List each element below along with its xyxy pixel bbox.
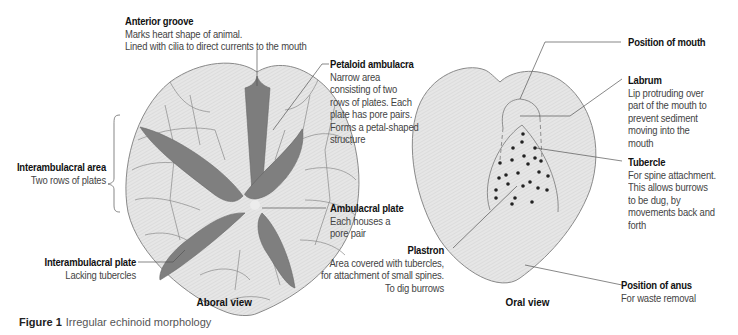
oral-view-title: Oral view	[506, 296, 550, 308]
figure-title: Irregular echinoid morphology	[66, 316, 212, 328]
label-title: Interambulacral plate	[19, 256, 136, 269]
label-description: Each houses a pore pair	[330, 215, 403, 240]
label-description: For waste removal	[621, 292, 696, 305]
label-title: Position of mouth	[628, 36, 705, 49]
label-description: Lip protruding over part of the mouth to…	[628, 87, 707, 150]
label-description: Lacking tubercles	[19, 269, 136, 282]
label-plastron: Plastron Area covered with tubercles, fo…	[300, 244, 444, 294]
label-interambulacral-area: Interambulacral area Two rows of plates	[0, 161, 106, 186]
label-title: Ambulacral plate	[330, 202, 403, 215]
label-petaloid-ambulacra: Petaloid ambulacra Narrow area consistin…	[330, 58, 433, 146]
label-tubercle: Tubercle For spine attachment. This allo…	[628, 156, 730, 231]
label-title: Position of anus	[621, 279, 696, 292]
label-title: Anterior groove	[125, 15, 307, 28]
figure-number: Figure 1	[19, 316, 62, 328]
label-interambulacral-plate: Interambulacral plate Lacking tubercles	[0, 256, 136, 281]
label-description: Marks heart shape of animal. Lined with …	[125, 28, 307, 53]
label-position-of-mouth: Position of mouth	[628, 36, 718, 49]
label-title: Interambulacral area	[15, 161, 106, 174]
label-position-of-anus: Position of anus For waste removal	[621, 279, 708, 304]
label-title: Labrum	[628, 74, 707, 87]
figure-caption: Figure 1Irregular echinoid morphology	[19, 316, 211, 328]
label-title: Plastron	[320, 244, 444, 257]
label-ambulacral-plate: Ambulacral plate Each houses a pore pair	[330, 202, 415, 240]
label-description: For spine attachment. This allows burrow…	[628, 169, 716, 232]
label-labrum: Labrum Lip protruding over part of the m…	[628, 74, 719, 149]
label-description: Narrow area consisting of two rows of pl…	[330, 71, 419, 146]
aboral-view-title: Aboral view	[197, 296, 253, 308]
label-title: Tubercle	[628, 156, 716, 169]
label-description: Two rows of plates	[15, 174, 106, 187]
label-description: Area covered with tubercles, for attachm…	[320, 257, 444, 295]
label-anterior-groove: Anterior groove Marks heart shape of ani…	[125, 15, 336, 53]
label-title: Petaloid ambulacra	[330, 58, 419, 71]
